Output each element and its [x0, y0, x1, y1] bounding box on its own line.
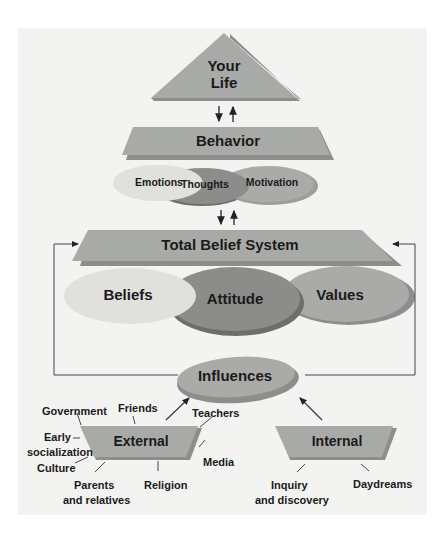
- culture-label: Culture: [37, 462, 76, 474]
- your-life-label: Your Life: [196, 58, 252, 91]
- total-belief-system-label: Total Belief System: [150, 237, 310, 254]
- behavior-label: Behavior: [180, 133, 276, 150]
- government-label: Government: [42, 405, 107, 417]
- and-discovery-label: and discovery: [255, 494, 329, 506]
- your-life-line2: Life: [196, 75, 252, 92]
- life-behavior-arrows: [219, 106, 233, 122]
- internal-label: Internal: [302, 434, 372, 449]
- media-label: Media: [203, 456, 234, 468]
- influences-label: Influences: [190, 368, 280, 385]
- inquiry-label: Inquiry: [271, 479, 308, 491]
- internal-leader-lines: [297, 464, 369, 472]
- and-relatives-label: and relatives: [63, 494, 130, 506]
- daydreams-label: Daydreams: [353, 478, 412, 490]
- external-label: External: [108, 434, 174, 449]
- motivation-label: Motivation: [232, 177, 312, 189]
- religion-label: Religion: [144, 479, 187, 491]
- thoughts-label: Thoughts: [170, 179, 240, 191]
- early-label: Early: [44, 431, 71, 443]
- friends-label: Friends: [118, 402, 158, 414]
- teachers-label: Teachers: [192, 407, 240, 419]
- your-life-line1: Your: [196, 58, 252, 75]
- beliefs-label: Beliefs: [88, 287, 168, 304]
- attitude-label: Attitude: [190, 291, 280, 308]
- socialization-label: socialization: [27, 446, 93, 458]
- values-label: Values: [300, 287, 380, 304]
- parents-label: Parents: [74, 479, 114, 491]
- behavior-belief-arrows: [221, 210, 234, 225]
